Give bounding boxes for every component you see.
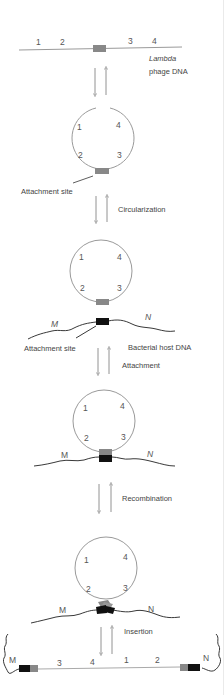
gene-label-1: 1: [36, 37, 41, 47]
lambda-integration-diagram: 1 2 3 4 Lambda phage DNA 1 4 2 3 Attachm…: [0, 0, 224, 695]
phage-dna-label: phage DNA: [149, 67, 188, 76]
reversible-arrows: [95, 68, 106, 95]
gene-label-1: 1: [83, 403, 88, 413]
host-attachment-site-left: [19, 665, 30, 672]
gene-label-2: 2: [86, 584, 91, 594]
attachment-site-label: Attachment site: [21, 187, 73, 196]
gene-label-4: 4: [120, 401, 125, 411]
stage-closed-circle: 1 4 2 3 M N Attachment site Bacterial ho…: [24, 240, 191, 353]
gene-label-2: 2: [78, 150, 83, 160]
phage-attachment-site-right: [180, 664, 188, 671]
host-label-m: M: [51, 319, 59, 329]
attachment-pointer: [73, 176, 93, 183]
gene-label-3: 3: [128, 36, 133, 46]
gene-label-3: 3: [57, 658, 62, 668]
host-attachment-site-right: [188, 664, 200, 671]
gene-label-2: 2: [84, 433, 89, 443]
attachment-pointer: [76, 326, 96, 338]
gene-label-1: 1: [79, 252, 84, 262]
stage-attached: 1 4 2 3 M N: [34, 390, 175, 466]
stage-recombination: 1 4 2 3 M N: [31, 537, 180, 623]
step-recombination: Recombination: [122, 494, 172, 503]
phage-circle: [72, 108, 134, 169]
phage-attachment-site: [93, 45, 106, 52]
reversible-arrows: Circularization: [96, 196, 166, 222]
gene-label-1: 1: [84, 555, 89, 565]
bacterial-host-dna-label: Bacterial host DNA: [128, 343, 191, 352]
gene-label-3: 3: [117, 150, 122, 160]
gene-label-4: 4: [116, 120, 121, 130]
lambda-label: Lambda: [149, 54, 176, 63]
host-label-n: N: [203, 653, 209, 663]
reversible-arrows: Recombination: [99, 484, 172, 512]
host-label-n: N: [148, 604, 154, 614]
phage-attachment-site: [95, 168, 109, 174]
host-label-n: N: [145, 312, 152, 322]
gene-label-4: 4: [117, 252, 122, 262]
crossover-sites: [96, 600, 115, 614]
host-dna-left: [3, 634, 19, 673]
phage-attachment-site-left: [30, 665, 38, 672]
step-insertion: Insertion: [124, 627, 153, 636]
gene-label-2: 2: [60, 37, 65, 47]
gene-label-1: 1: [124, 655, 129, 665]
stage-open-circle: 1 4 2 3 Attachment site: [21, 108, 134, 196]
step-attachment: Attachment: [122, 361, 161, 370]
gene-label-4: 4: [90, 657, 95, 667]
gene-label-2: 2: [80, 283, 85, 293]
host-label-m: M: [61, 450, 68, 460]
gene-label-2: 2: [155, 655, 160, 665]
gene-label-4: 4: [123, 552, 128, 562]
host-attachment-site: [96, 318, 109, 325]
gene-label-3: 3: [123, 583, 128, 593]
host-attachment-site: [99, 455, 112, 462]
host-label-n: N: [147, 449, 154, 459]
reversible-arrows: Insertion: [101, 627, 153, 654]
phage-attachment-site: [96, 299, 109, 305]
host-label-m: M: [9, 655, 16, 665]
gene-label-3: 3: [117, 283, 122, 293]
stage-linear-phage: 1 2 3 4 Lambda phage DNA: [19, 36, 188, 76]
attachment-site-label: Attachment site: [24, 344, 76, 353]
phage-circle: [73, 390, 135, 452]
phage-attachment-site: [99, 449, 112, 455]
gene-label-3: 3: [121, 432, 126, 442]
step-circularization: Circularization: [118, 205, 166, 214]
host-label-m: M: [59, 605, 66, 615]
gene-label-1: 1: [77, 122, 82, 132]
gene-label-4: 4: [152, 36, 157, 46]
